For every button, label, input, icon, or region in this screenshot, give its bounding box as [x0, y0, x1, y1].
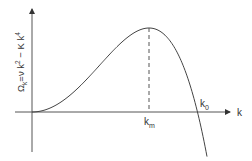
- svg-text:Ωk=ν k2 − K k4: Ωk=ν k2 − K k4: [14, 32, 28, 92]
- y-axis-label: Ωk=ν k2 − K k4: [14, 32, 28, 92]
- dispersion-curve: [32, 28, 207, 157]
- k0-label: k0: [200, 98, 209, 111]
- x-axis-label: k: [237, 107, 243, 118]
- dispersion-diagram: k km k0 Ωk=ν k2 − K k4: [0, 0, 252, 161]
- km-label: km: [144, 116, 155, 129]
